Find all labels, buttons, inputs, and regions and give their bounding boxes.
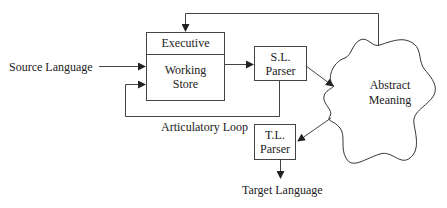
working-store-label-line1: Working	[146, 63, 225, 77]
source-language-label: Source Language	[9, 60, 93, 74]
tl-parser-label-line2: Parser	[254, 142, 296, 156]
target-language-label: Target Language	[242, 183, 323, 197]
articulatory-loop-label: Articulatory Loop	[161, 120, 248, 134]
executive-label: Executive	[146, 36, 225, 50]
abstract-meaning-label-line2: Meaning	[355, 93, 425, 107]
sl-parser-label-line2: Parser	[254, 64, 307, 78]
abstract-meaning-label-line1: Abstract	[355, 78, 425, 92]
diagram-canvas: Source Language Executive Working Store …	[0, 0, 447, 208]
working-store-label-line2: Store	[146, 77, 225, 91]
tl-parser-label-line1: T.L.	[254, 128, 296, 142]
sl-parser-label-line1: S.L.	[254, 50, 307, 64]
